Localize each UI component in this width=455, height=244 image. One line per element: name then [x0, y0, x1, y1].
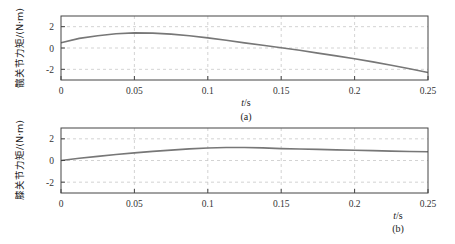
- y-tick-label: 0: [49, 44, 54, 54]
- y-tick-labels: -202: [46, 22, 54, 75]
- x-tick-labels: 00.050.10.150.20.25: [59, 86, 437, 96]
- y-tick-label: 2: [49, 22, 54, 32]
- x-tick-label: 0.25: [420, 86, 437, 96]
- x-tick-label: 0.2: [349, 199, 361, 209]
- y-tick-labels: -202: [46, 134, 54, 187]
- x-tick-label: 0.25: [420, 199, 437, 209]
- y-axis-title: 膝关节力矩/(N·m): [14, 120, 25, 200]
- tick-marks: [61, 27, 428, 80]
- x-tick-label: 0.2: [349, 86, 361, 96]
- figure: 00.050.10.150.20.25 -202 髋关节力矩/(N·m) t/s…: [0, 0, 455, 244]
- panel-caption: (b): [392, 223, 404, 235]
- x-tick-label: 0: [59, 199, 64, 209]
- x-tick-label: 0.15: [273, 86, 290, 96]
- data-series: [61, 33, 428, 73]
- hip-torque-chart: 00.050.10.150.20.25 -202 髋关节力矩/(N·m) t/s…: [14, 8, 437, 123]
- x-tick-label: 0.1: [202, 86, 214, 96]
- y-tick-label: 0: [49, 156, 54, 166]
- data-series: [61, 148, 428, 161]
- grid-lines: [61, 16, 428, 80]
- knee-torque-chart: 00.050.10.150.20.25 -202 膝关节力矩/(N·m) t/s…: [14, 120, 437, 235]
- y-tick-label: -2: [46, 178, 54, 188]
- x-tick-label: 0: [59, 86, 64, 96]
- x-axis-title: t/s: [241, 97, 251, 108]
- series-line: [61, 33, 428, 73]
- series-line: [61, 148, 428, 161]
- x-tick-labels: 00.050.10.150.20.25: [59, 199, 437, 209]
- x-tick-label: 0.05: [126, 199, 143, 209]
- y-tick-label: 2: [49, 134, 54, 144]
- grid-lines: [61, 128, 428, 193]
- x-axis-title: t/s: [393, 210, 403, 221]
- x-tick-label: 0.15: [273, 199, 290, 209]
- x-tick-label: 0.05: [126, 86, 143, 96]
- x-tick-label: 0.1: [202, 199, 214, 209]
- panel-caption: (a): [240, 111, 251, 123]
- y-tick-label: -2: [46, 65, 54, 75]
- y-axis-title: 髋关节力矩/(N·m): [14, 8, 25, 88]
